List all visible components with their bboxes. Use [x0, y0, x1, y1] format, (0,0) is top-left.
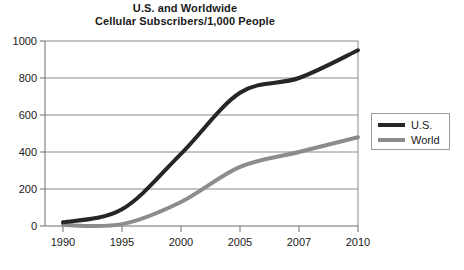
x-tick-label-2000: 2000 — [169, 236, 193, 248]
x-tick-label-2007: 2007 — [287, 236, 311, 248]
chart-legend: U.S. World — [371, 113, 450, 150]
y-tick-label-1000: 1000 — [13, 35, 37, 47]
legend-swatch-us — [378, 123, 405, 127]
series-line-world — [63, 137, 358, 226]
legend-entry-world: World — [378, 133, 440, 147]
legend-label-us: U.S. — [411, 120, 432, 131]
y-tick-label-0: 0 — [31, 220, 37, 232]
x-tick-label-2005: 2005 — [228, 236, 252, 248]
legend-entry-us: U.S. — [378, 118, 432, 132]
legend-swatch-world — [378, 138, 405, 142]
x-axis-tick-labels: 1990 1995 2000 2005 2007 2010 — [51, 236, 370, 248]
x-tick-label-1995: 1995 — [110, 236, 134, 248]
chart-figure: U.S. and Worldwide Cellular Subscribers/… — [0, 0, 464, 270]
x-tick-label-1990: 1990 — [51, 236, 75, 248]
x-tick-label-2010: 2010 — [346, 236, 370, 248]
gridlines — [45, 41, 358, 189]
legend-label-world: World — [411, 135, 440, 146]
y-tick-label-200: 200 — [19, 183, 37, 195]
y-axis-ticks — [40, 41, 45, 226]
y-tick-label-600: 600 — [19, 109, 37, 121]
y-tick-label-400: 400 — [19, 146, 37, 158]
y-tick-label-800: 800 — [19, 72, 37, 84]
y-axis-tick-labels: 1000 800 600 400 200 0 — [13, 35, 37, 232]
series-line-us — [63, 50, 358, 222]
